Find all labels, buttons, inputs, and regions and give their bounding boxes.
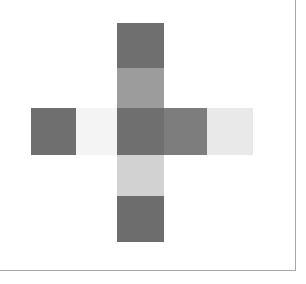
cell-right-outer [207,108,253,155]
cell-top [117,23,164,68]
cell-right-inner [164,108,207,155]
cell-lower-middle [117,155,164,196]
figure-canvas [0,0,306,284]
cell-bottom [117,196,164,242]
cell-left-inner [76,108,117,155]
cell-upper-middle [117,68,164,108]
cell-left-outer [31,108,76,155]
bottom-frame-rule [0,270,296,271]
cross-figure [0,0,306,284]
right-frame-rule [295,0,296,271]
cell-center [117,108,164,155]
